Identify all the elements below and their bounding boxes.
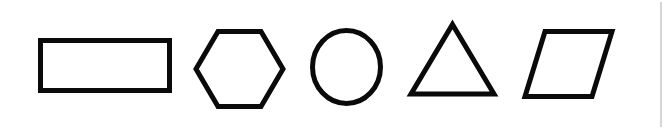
- shapes-figure-canvas: Geometric Shapes Row A horizontal row of…: [0, 0, 670, 129]
- figure-background: [0, 0, 670, 129]
- shapes-illustration: [0, 0, 670, 129]
